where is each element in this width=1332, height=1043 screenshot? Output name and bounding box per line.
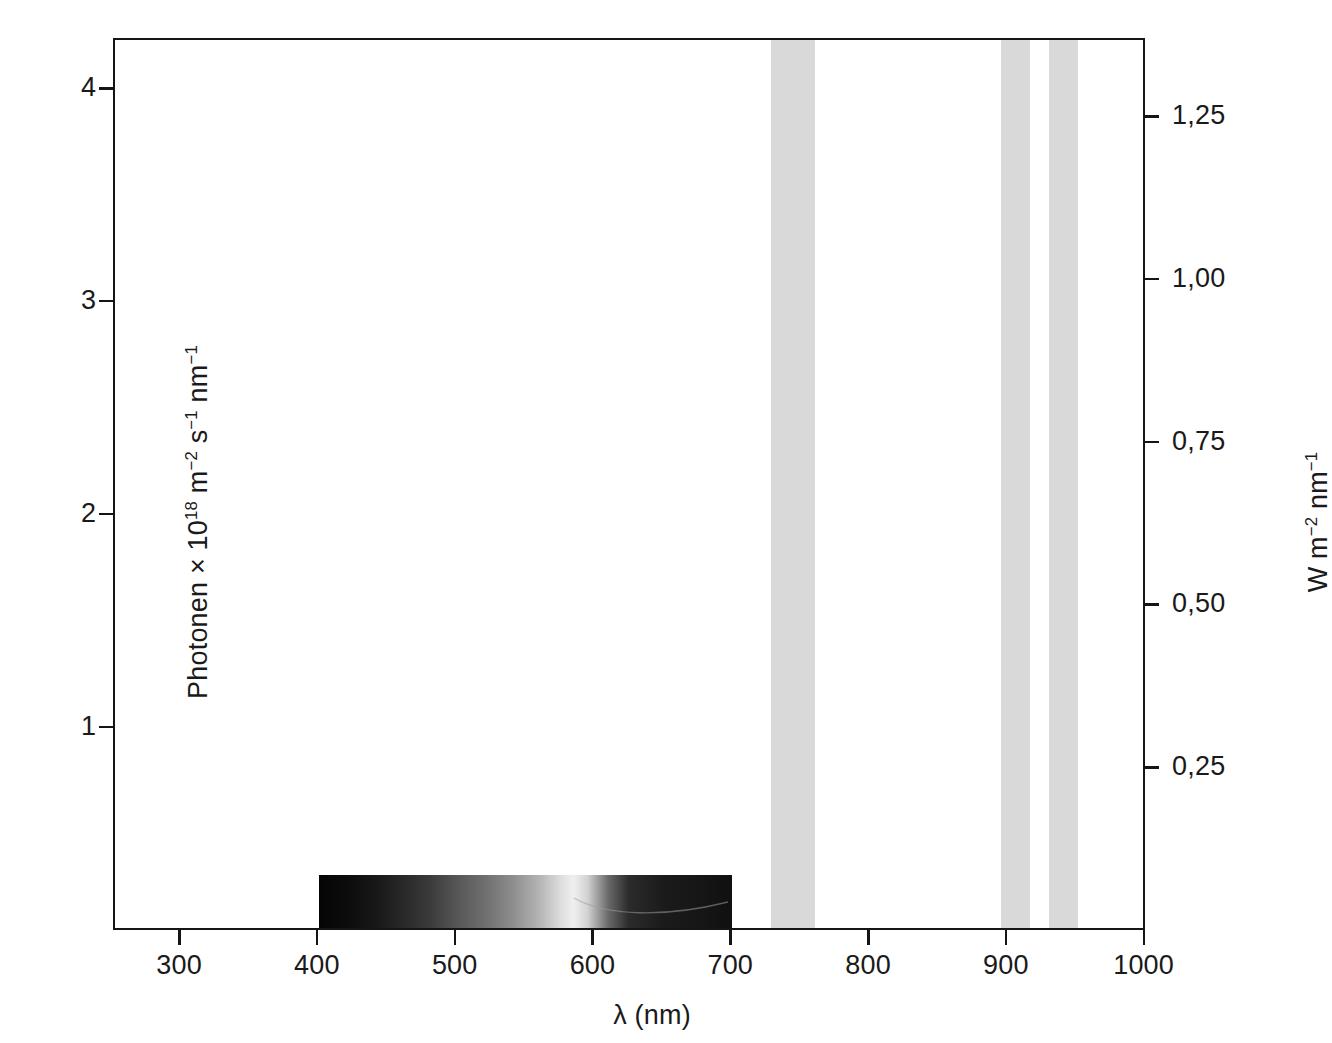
plot-area [113, 38, 1145, 930]
y-left-axis-label-1: 1 [60, 713, 96, 740]
nir-band-1 [771, 40, 815, 928]
y-left-axis-tick-3 [99, 300, 113, 303]
x-axis-label-800: 800 [808, 952, 928, 979]
y-right-axis-title-exp1: −2 [1302, 516, 1321, 535]
y-left-axis-label-4: 4 [60, 74, 96, 101]
y-left-axis-title-exp1: 18 [182, 500, 201, 519]
y-left-axis-title-mid3: nm [183, 364, 213, 410]
x-axis-tick-700 [729, 930, 732, 945]
y-left-axis-label-2: 2 [60, 500, 96, 527]
x-axis-label-700: 700 [670, 952, 790, 979]
x-axis-tick-900 [1005, 930, 1008, 945]
y-right-axis-tick-1-25 [1145, 115, 1159, 118]
x-axis-tick-600 [591, 930, 594, 945]
y-right-axis-tick-1 [1145, 278, 1159, 281]
x-axis-tick-1000 [1143, 930, 1146, 945]
plot-inner [115, 40, 1143, 928]
y-right-axis-tick-0-5 [1145, 603, 1159, 606]
x-axis-label-300: 300 [119, 952, 239, 979]
x-axis-label-600: 600 [532, 952, 652, 979]
y-right-axis-label-1-25: 1,25 [1172, 102, 1225, 129]
y-left-axis-title-exp3: −1 [182, 410, 201, 429]
y-left-axis-title-exp4: −1 [182, 345, 201, 364]
y-left-axis-label-3: 3 [60, 287, 96, 314]
x-axis-tick-300 [178, 930, 181, 945]
y-right-axis-label-0-25: 0,25 [1172, 753, 1225, 780]
y-left-axis-title-exp2: −2 [182, 451, 201, 470]
x-axis-tick-500 [454, 930, 457, 945]
y-right-axis-title: W m−2 nm−1 [1303, 451, 1332, 592]
visible-spectrum-strip [319, 875, 732, 928]
y-left-axis-tick-1 [99, 726, 113, 729]
y-right-axis-label-0-5: 0,50 [1172, 590, 1225, 617]
nir-band-2 [1001, 40, 1030, 928]
y-right-axis-tick-0-75 [1145, 441, 1159, 444]
y-left-axis-title: Photonen × 1018 m−2 s−1 nm−1 [183, 345, 214, 699]
x-axis-label-500: 500 [395, 952, 515, 979]
x-axis-title: λ (nm) [0, 1000, 1304, 1031]
x-axis-label-1000: 1000 [1084, 952, 1204, 979]
x-axis-tick-400 [316, 930, 319, 945]
y-left-axis-tick-2 [99, 513, 113, 516]
x-axis-tick-800 [867, 930, 870, 945]
spectrum-scratch-artifact [572, 894, 730, 920]
x-axis-label-900: 900 [946, 952, 1066, 979]
y-right-axis-title-exp2: −1 [1302, 451, 1321, 470]
y-right-axis-tick-0-25 [1145, 766, 1159, 769]
y-left-axis-title-text: Photonen × 10 [183, 519, 213, 698]
x-axis-label-400: 400 [257, 952, 377, 979]
y-left-axis-tick-4 [99, 87, 113, 90]
y-right-axis-title-text: W m [1303, 536, 1332, 592]
y-right-axis-label-1: 1,00 [1172, 265, 1225, 292]
y-left-axis-title-mid1: m [183, 470, 213, 500]
nir-band-3 [1049, 40, 1078, 928]
y-right-axis-label-0-75: 0,75 [1172, 428, 1225, 455]
y-left-axis-title-mid2: s [183, 429, 213, 450]
y-right-axis-title-mid1: nm [1303, 471, 1332, 517]
